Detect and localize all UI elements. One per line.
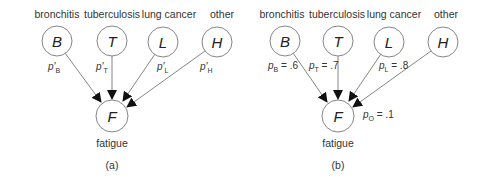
node-b: B [42, 26, 72, 56]
panel-b: bronchitis tuberculosis lung cancer othe… [260, 8, 459, 171]
edge-label-h: p'H [199, 61, 213, 74]
svg-text:B: B [52, 33, 62, 50]
label-fatigue: fatigue [322, 137, 354, 149]
label-bronchitis: bronchitis [35, 8, 80, 20]
node-l: L [374, 27, 404, 57]
node-t: T [97, 26, 127, 56]
node-l: L [148, 27, 178, 57]
svg-text:B: B [280, 33, 290, 50]
node-f: F [322, 100, 354, 132]
edge-label-t: p'T [95, 61, 108, 74]
label-other: other [210, 8, 234, 20]
label-bronchitis: bronchitis [260, 8, 305, 20]
edge-label-l: pL = .8 [378, 60, 409, 73]
label-other: other [434, 8, 458, 20]
svg-text:H: H [438, 34, 449, 51]
label-tuberculosis: tuberculosis [84, 8, 140, 20]
label-tuberculosis: tuberculosis [309, 8, 365, 20]
edge-label-t: pT = .7 [308, 60, 339, 73]
edge-label-l: p'L [156, 61, 168, 74]
caption-b: (b) [332, 159, 345, 171]
noisy-or-diagram: bronchitis tuberculosis lung cancer othe… [0, 0, 482, 181]
edge-l-to-f [349, 54, 381, 101]
node-f: F [96, 100, 128, 132]
label-fatigue: fatigue [96, 137, 128, 149]
node-t: T [323, 26, 353, 56]
edge-label-b: p'B [47, 61, 60, 74]
svg-text:F: F [107, 108, 117, 125]
svg-text:L: L [159, 34, 167, 51]
edge-l-to-f [123, 54, 155, 101]
node-h: H [202, 27, 232, 57]
svg-text:F: F [333, 108, 343, 125]
leak-label: pO = .1 [362, 109, 394, 122]
label-lung-cancer: lung cancer [367, 8, 422, 20]
panel-a: bronchitis tuberculosis lung cancer othe… [35, 8, 235, 171]
edge-h-to-f [127, 51, 205, 107]
svg-text:L: L [385, 34, 393, 51]
caption-a: (a) [106, 159, 119, 171]
label-lung-cancer: lung cancer [142, 8, 197, 20]
edge-label-b: pB = .6 [267, 60, 298, 73]
node-h: H [428, 27, 458, 57]
svg-text:H: H [212, 34, 223, 51]
node-b: B [270, 26, 300, 56]
